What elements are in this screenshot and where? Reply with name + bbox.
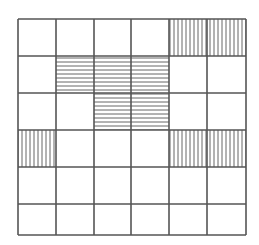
hatched-cell-horizontal — [94, 93, 131, 130]
hatched-cell-horizontal — [131, 93, 169, 130]
hatched-cell-vertical — [207, 19, 246, 56]
hatched-cell-vertical — [207, 130, 246, 167]
hatched-cell-horizontal — [131, 56, 169, 93]
grid-diagram — [0, 0, 259, 245]
hatched-cell-horizontal — [94, 56, 131, 93]
hatched-cell-vertical — [169, 19, 207, 56]
hatched-cell-vertical — [18, 130, 56, 167]
hatched-cell-horizontal — [56, 56, 94, 93]
hatched-cell-vertical — [169, 130, 207, 167]
